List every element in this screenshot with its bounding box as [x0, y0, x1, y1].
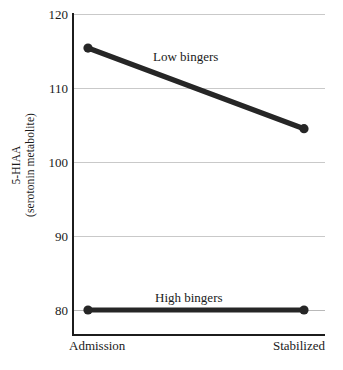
x-tick-label-admission: Admission [69, 338, 125, 353]
series-low-bingers-point-admission [83, 43, 92, 52]
line-chart-figure: 5-HIAA (serotonin metabolite) 120 110 10… [0, 0, 343, 370]
series-label-high-bingers: High bingers [155, 291, 223, 305]
x-tick-label-stabilized: Stabilized [273, 338, 325, 353]
caption-sliver [14, 364, 329, 370]
series-high-bingers-point-admission [83, 305, 92, 314]
series-low-bingers-point-stabilized [299, 124, 308, 133]
series-high-bingers-point-stabilized [299, 305, 308, 314]
series-high-bingers [83, 305, 308, 314]
series-label-low-bingers: Low bingers [153, 50, 218, 64]
